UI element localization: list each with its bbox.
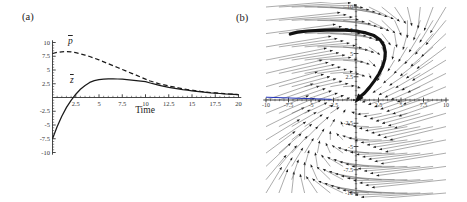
pbar-curve-label: p [67,36,74,46]
figure: 2.557.51012.51517.520107.552.5-2.5-5-7.5… [0,0,467,202]
svg-text:-7.5: -7.5 [40,135,50,142]
svg-text:10: 10 [44,39,51,46]
svg-text:-2.5: -2.5 [40,107,50,114]
time-axis-label: Time [124,105,166,115]
svg-text:5: 5 [350,51,353,57]
svg-text:-10: -10 [262,102,270,108]
panel-b-label: (b) [236,12,248,23]
svg-text:20: 20 [235,100,242,107]
svg-text:15: 15 [189,100,196,107]
svg-text:-5: -5 [45,121,50,128]
svg-text:-7.5: -7.5 [344,167,354,173]
panel-b: -10-7.5-5-2.52.557.510107.552.5-2.5-5-7.… [262,0,449,201]
svg-text:-5: -5 [348,144,353,150]
figure-canvas: 2.557.51012.51517.520107.552.5-2.5-5-7.5… [0,0,467,202]
svg-text:7.5: 7.5 [42,52,50,59]
panel-a-axes [53,40,242,154]
zbar-symbol: z [69,75,75,85]
svg-text:2.5: 2.5 [346,74,354,80]
panel-a-label: (a) [22,11,34,22]
svg-text:-2.5: -2.5 [329,102,339,108]
trajectory-curve [290,30,385,100]
pbar-curve [53,52,239,95]
svg-text:17.5: 17.5 [210,100,221,107]
zbar-curve-label: z [69,75,75,85]
svg-text:-10: -10 [41,149,50,156]
svg-text:2.5: 2.5 [72,100,80,107]
panel-a: 2.557.51012.51517.520107.552.5-2.5-5-7.5… [40,39,242,156]
pbar-symbol: p [67,36,74,46]
svg-text:5: 5 [47,66,50,73]
svg-text:10: 10 [443,102,449,108]
svg-text:5: 5 [97,100,100,107]
svg-text:2.5: 2.5 [42,80,50,87]
